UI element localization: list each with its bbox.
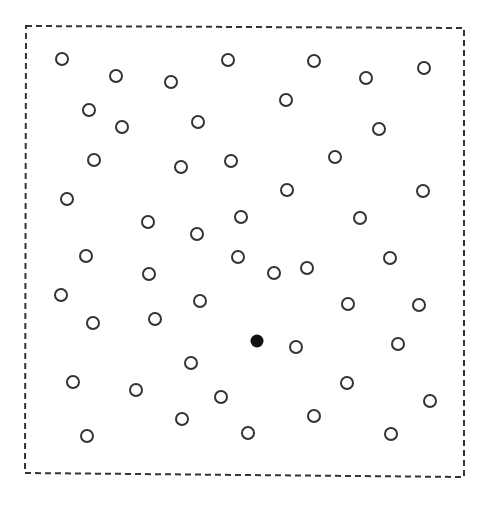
open-point-marker	[232, 251, 244, 263]
open-point-marker	[88, 154, 100, 166]
open-point-marker	[385, 428, 397, 440]
open-point-marker	[413, 299, 425, 311]
open-point-marker	[290, 341, 302, 353]
open-point-marker	[225, 155, 237, 167]
open-point-marker	[384, 252, 396, 264]
open-point-marker	[308, 55, 320, 67]
open-point-marker	[83, 104, 95, 116]
open-point-marker	[191, 228, 203, 240]
open-point-marker	[116, 121, 128, 133]
open-point-marker	[67, 376, 79, 388]
open-point-marker	[175, 161, 187, 173]
open-point-marker	[341, 377, 353, 389]
point-pattern-figure	[0, 0, 486, 505]
open-point-marker	[143, 268, 155, 280]
open-point-marker	[235, 211, 247, 223]
open-point-marker	[185, 357, 197, 369]
open-point-marker	[192, 116, 204, 128]
open-point-marker	[242, 427, 254, 439]
open-point-marker	[360, 72, 372, 84]
open-point-marker	[110, 70, 122, 82]
open-point-marker	[424, 395, 436, 407]
open-point-marker	[87, 317, 99, 329]
open-point-marker	[130, 384, 142, 396]
open-point-marker	[81, 430, 93, 442]
open-point-marker	[354, 212, 366, 224]
filled-point-marker	[251, 335, 264, 348]
open-point-marker	[281, 184, 293, 196]
open-point-marker	[418, 62, 430, 74]
open-point-marker	[142, 216, 154, 228]
open-point-marker	[268, 267, 280, 279]
open-point-marker	[417, 185, 429, 197]
filled-points-group	[251, 335, 264, 348]
open-point-marker	[301, 262, 313, 274]
open-point-marker	[342, 298, 354, 310]
open-point-marker	[80, 250, 92, 262]
open-point-marker	[165, 76, 177, 88]
open-points-group	[55, 53, 436, 442]
open-point-marker	[61, 193, 73, 205]
open-point-marker	[222, 54, 234, 66]
open-point-marker	[392, 338, 404, 350]
open-point-marker	[215, 391, 227, 403]
open-point-marker	[373, 123, 385, 135]
open-point-marker	[56, 53, 68, 65]
open-point-marker	[149, 313, 161, 325]
open-point-marker	[176, 413, 188, 425]
open-point-marker	[329, 151, 341, 163]
open-point-marker	[280, 94, 292, 106]
open-point-marker	[55, 289, 67, 301]
open-point-marker	[194, 295, 206, 307]
open-point-marker	[308, 410, 320, 422]
